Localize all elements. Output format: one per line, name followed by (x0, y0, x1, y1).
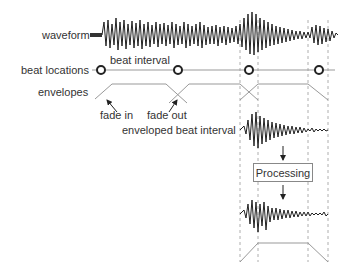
label-fade-out: fade out (147, 110, 187, 121)
label-beat-locations: beat locations (21, 65, 89, 76)
enveloped-waveform (240, 112, 328, 148)
label-envelopes: envelopes (38, 87, 88, 98)
label-fade-in: fade in (100, 110, 133, 121)
label-waveform: waveform (42, 30, 90, 41)
bottom-envelope (240, 243, 328, 262)
label-enveloped-beat-interval: enveloped beat interval (122, 125, 236, 136)
waveform-signal (90, 12, 338, 55)
label-beat-interval: beat interval (110, 55, 170, 66)
processed-waveform (240, 200, 328, 232)
processing-box: Processing (253, 163, 313, 182)
envelope-lines (95, 84, 328, 103)
